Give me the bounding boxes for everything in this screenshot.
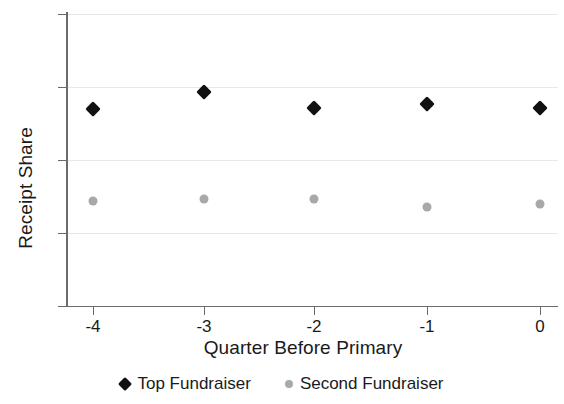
legend-entry-top-fundraiser: Top Fundraiser <box>120 374 250 394</box>
data-point-circle <box>310 195 319 204</box>
x-tick-mark-0 <box>540 307 541 315</box>
x-tick-mark--2 <box>314 307 315 315</box>
legend-label-top-fundraiser: Top Fundraiser <box>137 374 250 394</box>
y-axis-line <box>66 12 68 307</box>
x-tick-mark--1 <box>427 307 428 315</box>
y-tick-mark-0.6 <box>58 87 66 88</box>
x-axis-title: Quarter Before Primary <box>66 337 540 359</box>
y-tick-mark-0.2 <box>58 233 66 234</box>
y-axis-title: Receipt Share <box>15 78 37 298</box>
x-tick-mark--4 <box>93 307 94 315</box>
data-point-circle <box>89 197 98 206</box>
diamond-marker-icon <box>118 377 132 391</box>
data-point-circle <box>423 203 432 212</box>
x-axis-line <box>66 306 558 308</box>
gridline-0.6 <box>66 87 558 88</box>
x-tick-label--2: -2 <box>284 317 344 337</box>
gridline-0.2 <box>66 233 558 234</box>
y-tick-mark-0.4 <box>58 160 66 161</box>
legend-label-second-fundraiser: Second Fundraiser <box>300 374 444 394</box>
x-tick-label-0: 0 <box>510 317 564 337</box>
legend-entry-second-fundraiser: Second Fundraiser <box>285 374 444 394</box>
plot-area <box>66 14 558 306</box>
gridline-0.8 <box>66 14 558 15</box>
chart-legend: Top Fundraiser Second Fundraiser <box>0 374 564 394</box>
data-point-circle <box>200 195 209 204</box>
data-point-circle <box>536 199 545 208</box>
y-tick-mark-0.8 <box>58 14 66 15</box>
x-tick-label--4: -4 <box>63 317 123 337</box>
x-tick-label--1: -1 <box>397 317 457 337</box>
scatter-chart: Receipt Share Quarter Before Primary .8 … <box>0 0 564 404</box>
circle-marker-icon <box>285 380 293 388</box>
x-tick-label--3: -3 <box>174 317 234 337</box>
gridline-0.4 <box>66 160 558 161</box>
x-tick-mark--3 <box>204 307 205 315</box>
y-tick-mark-0 <box>58 306 66 307</box>
